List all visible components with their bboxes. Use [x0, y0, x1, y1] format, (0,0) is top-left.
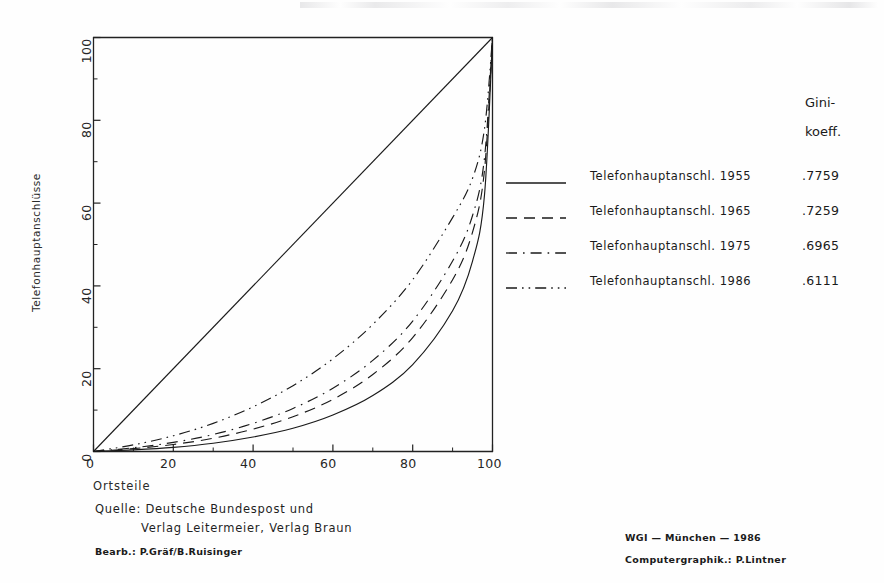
x-tick-label-20: 20	[160, 456, 177, 471]
y-tick-label-80: 80	[79, 122, 94, 150]
source-line-2: Verlag Leitermeier, Verlag Braun	[95, 519, 352, 538]
chart-page: Telefonhauptanschlüsse Ortsteile 0 20 40…	[0, 0, 884, 583]
y-axis-title: Telefonhauptanschlüsse	[30, 112, 42, 312]
legend-gini-value: .7259	[802, 203, 839, 219]
y-tick-label-0: 0	[79, 454, 94, 482]
legend-header: Gini- koeff.	[805, 88, 884, 146]
legend-row[interactable]: Telefonhauptanschl. 1986.6111	[505, 273, 877, 301]
publisher-credits: WGI — München — 1986 Computergraphik.: P…	[625, 527, 786, 571]
y-tick-label-100: 100	[79, 39, 94, 67]
source-note: Quelle: Deutsche Bundespost und Verlag L…	[95, 500, 352, 538]
legend-label: Telefonhauptanschl. 1986	[590, 273, 751, 289]
x-tick-label-60: 60	[320, 456, 337, 471]
editor-credit: Bearb.: P.Gräf/B.Ruisinger	[95, 546, 242, 557]
legend-label: Telefonhauptanschl. 1965	[590, 203, 751, 219]
legend-gini-value: .6965	[802, 238, 839, 254]
legend-line-sample-solid	[505, 174, 567, 186]
legend-row[interactable]: Telefonhauptanschl. 1955.7759	[505, 168, 877, 196]
y-tick-label-40: 40	[79, 288, 94, 316]
legend-row[interactable]: Telefonhauptanschl. 1965.7259	[505, 203, 877, 231]
x-axis-title: Ortsteile	[93, 479, 150, 493]
legend-gini-value: .6111	[802, 273, 839, 289]
institute-credit: WGI — München — 1986	[625, 527, 786, 549]
legend-line-sample-dashed	[505, 209, 567, 221]
legend-line-sample-dashdotdot	[505, 279, 567, 291]
legend-line-sample-dashdot	[505, 244, 567, 256]
x-tick-label-40: 40	[240, 456, 257, 471]
y-tick-label-20: 20	[79, 371, 94, 399]
x-tick-label-100: 100	[477, 456, 502, 471]
graphics-credit: Computergraphik.: P.Lintner	[625, 549, 786, 571]
legend-label: Telefonhauptanschl. 1955	[590, 168, 751, 184]
legend-label: Telefonhauptanschl. 1975	[590, 238, 751, 254]
legend-gini-value: .7759	[802, 168, 839, 184]
x-tick-label-80: 80	[400, 456, 417, 471]
legend-header-line1: Gini-	[805, 88, 884, 117]
data-curves	[94, 38, 493, 452]
y-tick-label-60: 60	[79, 205, 94, 233]
legend-row[interactable]: Telefonhauptanschl. 1975.6965	[505, 238, 877, 266]
reference-line-diagonal	[94, 38, 493, 452]
legend-header-line2: koeff.	[805, 117, 884, 146]
source-line-1: Quelle: Deutsche Bundespost und	[95, 500, 352, 519]
